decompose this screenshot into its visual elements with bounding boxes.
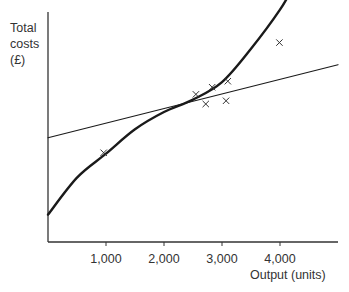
linear-fit	[48, 65, 338, 138]
points-group	[100, 39, 282, 156]
data-point-x-marker	[225, 78, 231, 84]
x-tick-label: 3,000	[206, 252, 237, 266]
x-tick-label: 2,000	[148, 252, 179, 266]
cubic-total-cost-curve	[48, 0, 295, 215]
series-group	[48, 0, 338, 215]
chart: 1,0002,0003,0004,000	[0, 0, 349, 292]
x-tick-label: 1,000	[90, 252, 121, 266]
data-point-x-marker	[193, 91, 199, 97]
ticks-group: 1,0002,0003,0004,000	[90, 242, 295, 266]
data-point-x-marker	[223, 98, 229, 104]
data-point-x-marker	[203, 101, 209, 107]
data-point-x-marker	[276, 39, 282, 45]
x-tick-label: 4,000	[264, 252, 295, 266]
